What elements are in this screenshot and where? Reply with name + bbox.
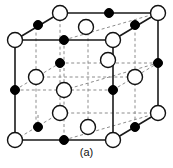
atom-open-corner-back-top-right bbox=[151, 6, 166, 21]
atom-filled-edge-back-left-mid bbox=[56, 59, 65, 68]
atom-open-corner-back-bottom-right bbox=[151, 106, 166, 121]
atom-open-face-back-center bbox=[101, 53, 116, 68]
atom-filled-edge-top-right bbox=[131, 21, 140, 30]
atom-filled-edge-bottom-left bbox=[34, 123, 43, 132]
atom-filled-edge-back-top bbox=[105, 9, 114, 18]
crystal-structure-figure: (a) bbox=[0, 0, 173, 168]
atom-open-face-bottom-center bbox=[81, 120, 96, 135]
atom-open-face-right-center bbox=[128, 70, 143, 85]
atom-open-face-top-center bbox=[79, 20, 94, 35]
atom-filled-edge-front-bottom bbox=[60, 136, 69, 145]
atom-filled-edge-left-mid bbox=[11, 86, 20, 95]
atom-open-corner-front-top-left bbox=[8, 33, 23, 48]
atom-open-face-left-center bbox=[29, 70, 44, 85]
atom-open-body-center bbox=[57, 83, 72, 98]
atom-open-corner-front-top-right bbox=[106, 33, 121, 48]
atom-filled-edge-bottom-right bbox=[131, 123, 140, 132]
atom-filled-edge-front-top bbox=[60, 36, 69, 45]
figure-caption: (a) bbox=[0, 146, 173, 159]
atom-filled-inner-mid-right bbox=[109, 86, 118, 95]
lattice-diagram bbox=[0, 0, 173, 168]
atom-open-corner-back-top-left bbox=[53, 6, 68, 21]
atom-open-face-front-center bbox=[53, 106, 68, 121]
atom-filled-edge-right-mid bbox=[154, 59, 163, 68]
atom-filled-edge-top-left bbox=[34, 21, 43, 30]
